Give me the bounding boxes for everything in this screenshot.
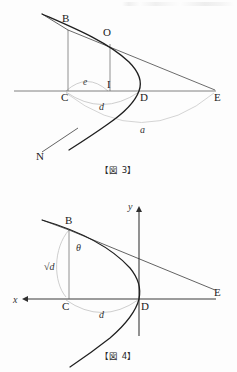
figure-4-axes bbox=[28, 212, 216, 336]
figure-4: B C D E x y θ √d d 【図 4】 bbox=[0, 186, 237, 372]
parabola-curve bbox=[42, 220, 140, 367]
measure-label-d: d bbox=[99, 309, 105, 320]
figure-4-drawing: B C D E x y θ √d d bbox=[0, 186, 237, 372]
figure-3: B O C I D E N e d a 【図 3】 bbox=[0, 0, 237, 186]
axis-label-x: x bbox=[12, 294, 18, 305]
point-label-B: B bbox=[62, 12, 69, 24]
measure-label-d: d bbox=[99, 101, 105, 112]
measure-label-e: e bbox=[83, 77, 87, 87]
axis-label-y: y bbox=[127, 201, 133, 212]
figure-3-drawing: B O C I D E N e d a bbox=[0, 0, 237, 186]
point-label-I: I bbox=[107, 79, 111, 90]
point-label-D: D bbox=[141, 300, 149, 312]
segment-B-E bbox=[68, 30, 215, 90]
figure-3-labels: B O C I D E N e d a bbox=[36, 12, 221, 162]
point-label-E: E bbox=[214, 286, 221, 298]
measure-label-a: a bbox=[140, 124, 145, 135]
point-label-E: E bbox=[214, 91, 221, 103]
measure-label-sqrt-d: √d bbox=[44, 261, 55, 272]
point-label-C: C bbox=[61, 91, 68, 103]
point-label-O: O bbox=[103, 26, 111, 38]
figure-4-labels: B C D E x y θ √d d bbox=[12, 201, 221, 320]
figure-page: B O C I D E N e d a 【図 3】 bbox=[0, 0, 237, 372]
figure-4-caption: 【図 4】 bbox=[0, 349, 237, 361]
point-label-B: B bbox=[65, 214, 72, 226]
arc-sqrt-d bbox=[57, 230, 69, 297]
point-label-D: D bbox=[140, 91, 148, 103]
point-label-N: N bbox=[36, 150, 44, 162]
figure-3-segments bbox=[14, 14, 216, 152]
measure-label-theta: θ bbox=[76, 242, 81, 253]
figure-3-caption: 【図 3】 bbox=[0, 163, 237, 175]
point-label-C: C bbox=[62, 300, 69, 312]
